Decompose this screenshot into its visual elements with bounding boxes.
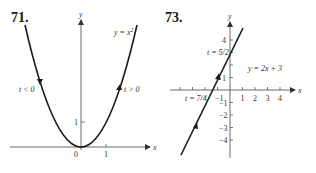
- x-tick-label-1: 1: [241, 94, 245, 103]
- annotation-t-5-2: t = 5/2: [207, 48, 229, 57]
- x-tick-label-2: 2: [253, 94, 257, 103]
- x-axis-label: x: [152, 143, 157, 152]
- x-tick-label-0: 0: [74, 150, 78, 159]
- y-axis-label: y: [227, 12, 232, 21]
- annotation-t-positive: t > 0: [124, 85, 140, 94]
- figure: 71. x y 0 1 1 y = x2 t < 0 t > 0 73. x y: [0, 0, 316, 173]
- y-axis-label: y: [78, 10, 83, 19]
- curve-label-73: y = 2x + 3: [247, 64, 282, 73]
- problem-number-73: 73.: [165, 10, 183, 25]
- y-tick-label-1: 1: [74, 118, 78, 127]
- problem-number-71: 71.: [11, 10, 29, 25]
- graph-71: 71. x y 0 1 1 y = x2 t < 0 t > 0: [10, 10, 157, 159]
- curve-label-71: y = x2: [113, 27, 134, 37]
- annotation-t-negative: t < 0: [19, 85, 35, 94]
- y-tick-label-1: 1: [222, 74, 226, 83]
- y-tick-label-neg3: −3: [219, 124, 228, 133]
- annotation-t-7-4: t = 7/4: [185, 94, 207, 103]
- arrow-down-icon: [37, 79, 43, 85]
- y-tick-label-4: 4: [222, 36, 226, 45]
- x-axis-label: x: [297, 86, 302, 95]
- x-tick-label-3: 3: [266, 94, 270, 103]
- y-tick-label-neg2: −2: [219, 111, 228, 120]
- x-tick-label-1: 1: [104, 150, 108, 159]
- x-tick-label-4: 4: [278, 94, 282, 103]
- y-tick-label-neg4: −4: [219, 136, 228, 145]
- y-tick-label-neg1: −1: [219, 99, 228, 108]
- graph-73: 73. x y −1 1: [165, 10, 302, 158]
